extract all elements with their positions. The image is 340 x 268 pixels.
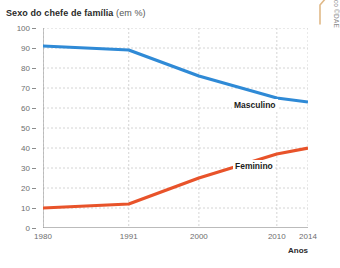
y-tick-mark [32, 208, 36, 209]
plot-area [43, 28, 308, 228]
y-tick-label: 40 [21, 144, 30, 153]
chart-canvas [43, 28, 308, 228]
series-label-masculino: Masculino [232, 99, 278, 111]
y-tick-label: 60 [21, 104, 30, 113]
series-line-masculino [43, 46, 308, 102]
y-tick-label: 90 [21, 44, 30, 53]
chart-title-unit: (em %) [116, 8, 146, 18]
x-tick-label: 2000 [190, 232, 208, 241]
y-tick-label: 20 [21, 184, 30, 193]
y-tick-label: 50 [21, 124, 30, 133]
x-axis: 19801991200020102014 [43, 232, 308, 246]
y-tick-mark [32, 88, 36, 89]
y-tick-label: 0 [26, 224, 30, 233]
x-tick-label: 1991 [120, 232, 138, 241]
y-tick-mark [32, 148, 36, 149]
y-tick-mark [32, 68, 36, 69]
series-label-feminino: Feminino [233, 160, 275, 172]
chart-title-text: Sexo do chefe de família [6, 8, 113, 18]
y-tick-mark [32, 228, 36, 229]
y-tick-mark [32, 188, 36, 189]
credit-text: Gráfico ©DAE [333, 0, 340, 28]
x-axis-title: Anos [288, 246, 308, 255]
y-tick-mark [32, 48, 36, 49]
page-title: Sexo do chefe de família (em %) [6, 8, 146, 18]
series-lines [43, 46, 308, 208]
y-tick-label: 80 [21, 64, 30, 73]
y-tick-label: 10 [21, 204, 30, 213]
x-tick-label: 2010 [268, 232, 286, 241]
y-tick-mark [32, 28, 36, 29]
x-tick-label: 2014 [299, 232, 317, 241]
series-line-feminino [43, 148, 308, 208]
y-axis: 1009080706050403020100 [0, 28, 36, 228]
grid-lines [43, 28, 308, 228]
y-tick-mark [32, 128, 36, 129]
y-tick-mark [32, 108, 36, 109]
y-tick-label: 70 [21, 84, 30, 93]
y-tick-label: 100 [17, 24, 30, 33]
y-tick-mark [32, 168, 36, 169]
corner-flourish-icon [294, 0, 334, 28]
y-tick-label: 30 [21, 164, 30, 173]
x-tick-label: 1980 [34, 232, 52, 241]
